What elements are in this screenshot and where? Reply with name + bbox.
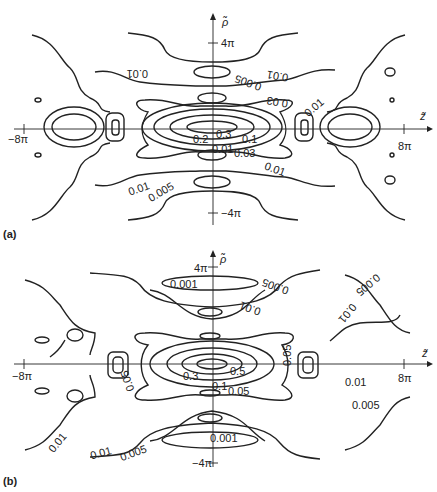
contour-label: 0.3 [216, 128, 231, 140]
tick-x-pos-b: 8π [398, 372, 412, 384]
contour-label: 0.005 [233, 73, 263, 94]
contour-label: 0.3 [183, 370, 198, 382]
contour-label: 0.01 [345, 376, 366, 388]
contour-label: 0.005 [352, 399, 380, 411]
z-axis-label-a: z̃ [419, 110, 426, 122]
contour-label: 0.005 [118, 442, 148, 463]
contour-label: 0.2 [193, 133, 208, 145]
tick-y-neg-b: −4π [192, 457, 213, 469]
contour-label: 0.01 [127, 68, 148, 80]
contour-label: 0.01 [89, 444, 113, 461]
contour-label: 0.01 [46, 430, 69, 454]
panel-b: −8π 8π 4π −4π ρ̃ z̃ 0.001 0.005 0.01 0.0… [0, 245, 437, 492]
tick-y-pos-b: 4π [194, 262, 208, 274]
contour-label: 0.1 [212, 380, 227, 392]
tick-x-pos-a: 8π [398, 140, 412, 152]
contour-label: 0.01 [266, 69, 289, 85]
contour-label: 0.001 [210, 432, 238, 444]
tick-y-pos-a: 4π [221, 37, 235, 49]
rho-axis-label-a: ρ̃ [221, 16, 228, 28]
contour-label: 0.03 [266, 95, 289, 111]
contour-label: 0.05 [228, 385, 249, 397]
tick-y-neg-a: −4π [221, 207, 242, 219]
contour-label: 0.001 [170, 278, 198, 290]
panel-label-b: (b) [3, 475, 17, 487]
contour-label: 0.05 [281, 345, 293, 366]
contour-label: 0.05 [118, 369, 137, 393]
contour-label: 0.01 [336, 301, 359, 325]
contour-label: 0.03 [234, 147, 255, 159]
contour-label: 0.005 [146, 180, 176, 204]
contour-plot-a: −8π 8π 4π −4π ρ̃ z̃ 0.01 0.005 0.01 0.03… [0, 0, 437, 245]
panel-label-a: (a) [3, 228, 16, 240]
z-axis-label-b: z̃ [421, 347, 428, 359]
panel-a: −8π 8π 4π −4π ρ̃ z̃ 0.01 0.005 0.01 0.03… [0, 0, 437, 245]
contour-label: 0.1 [242, 133, 257, 145]
contour-label: 0.005 [354, 272, 383, 299]
contour-label: 0.5 [230, 365, 245, 377]
contour-plot-b: −8π 8π 4π −4π ρ̃ z̃ 0.001 0.005 0.01 0.0… [0, 245, 437, 492]
contour-label: 0.01 [302, 96, 326, 119]
tick-x-neg-b: −8π [12, 370, 33, 382]
rho-axis-label-b: ρ̃ [219, 253, 226, 265]
tick-x-neg-a: −8π [8, 133, 29, 145]
contour-label: 0.01 [212, 143, 233, 155]
